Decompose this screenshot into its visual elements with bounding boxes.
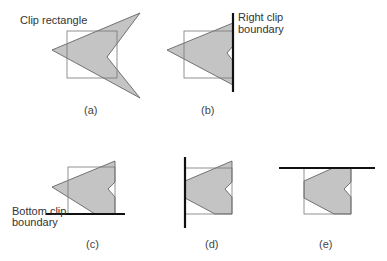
- clip-rectangle-label: Clip rectangle: [20, 14, 87, 26]
- caption-d: (d): [205, 238, 218, 250]
- caption-a: (a): [84, 104, 97, 116]
- bottom-clip-label-line2: boundary: [12, 216, 58, 228]
- clipping-diagram: [0, 0, 387, 261]
- polygon-clipped-top: [304, 168, 351, 214]
- panel-e: [279, 168, 375, 214]
- caption-c: (c): [86, 238, 99, 250]
- panel-d: [185, 157, 232, 228]
- polygon-clipped-right: [167, 23, 233, 85]
- polygon-clipped-left: [185, 161, 232, 214]
- right-clip-label-line2: boundary: [238, 23, 284, 35]
- right-clip-label-line1: Right clip: [238, 11, 283, 23]
- panel-b: [167, 13, 233, 92]
- caption-e: (e): [319, 238, 332, 250]
- caption-b: (b): [201, 104, 214, 116]
